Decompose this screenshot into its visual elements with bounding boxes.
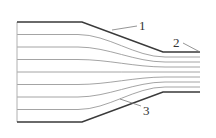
streamline bbox=[17, 60, 200, 68]
leader-line-2 bbox=[183, 43, 200, 52]
label-2-outlet: 2 bbox=[173, 35, 180, 50]
leader-line-1 bbox=[112, 26, 137, 30]
streamline bbox=[17, 87, 200, 110]
bottom-wall bbox=[17, 92, 200, 122]
label-3-streamline: 3 bbox=[143, 103, 150, 118]
streamline bbox=[17, 77, 200, 85]
leader-line-3 bbox=[120, 99, 141, 106]
label-1-wall: 1 bbox=[139, 18, 146, 33]
nozzle-streamline-diagram: 1 2 3 bbox=[0, 0, 216, 138]
